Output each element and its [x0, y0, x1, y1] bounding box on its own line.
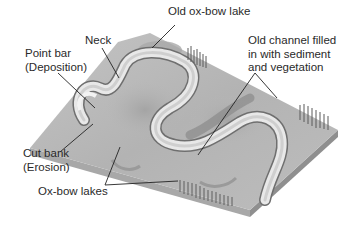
label-point-bar: Point bar (Deposition) — [25, 47, 87, 74]
label-point-bar-line2: (Deposition) — [25, 61, 87, 75]
label-neck: Neck — [85, 34, 111, 48]
label-old-channel-line3: and vegetation — [248, 61, 336, 75]
label-cut-bank-line2: (Erosion) — [23, 161, 70, 175]
label-old-channel-line1: Old channel filled — [248, 34, 336, 48]
label-cut-bank: Cut bank (Erosion) — [23, 147, 70, 174]
label-old-channel: Old channel filled in with sediment and … — [248, 34, 336, 75]
label-point-bar-line1: Point bar — [25, 47, 87, 61]
label-cut-bank-line1: Cut bank — [23, 147, 70, 161]
label-old-channel-line2: in with sediment — [248, 48, 336, 62]
label-old-oxbow-lake: Old ox-bow lake — [168, 5, 250, 19]
label-oxbow-lakes: Ox-bow lakes — [38, 185, 108, 199]
